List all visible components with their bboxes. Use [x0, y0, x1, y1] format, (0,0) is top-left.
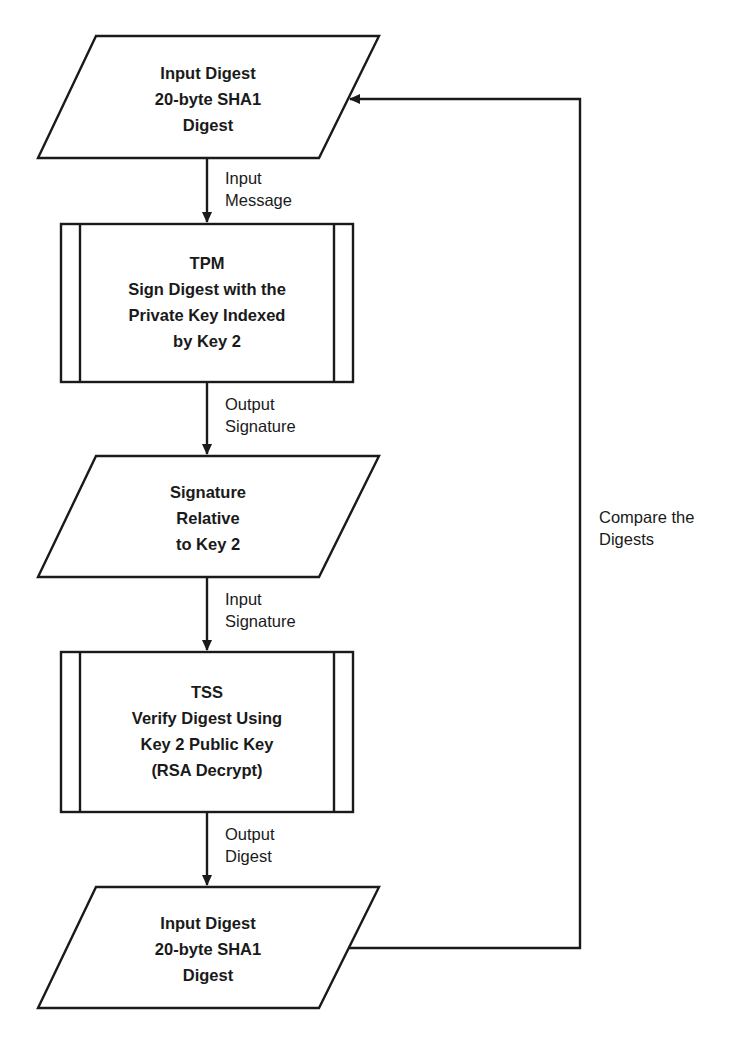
node-line: Digest [108, 962, 308, 988]
edge-label-input-message: Input Message [225, 167, 292, 211]
node-line: Input Digest [108, 60, 308, 86]
node-line: Key 2 Public Key [82, 731, 332, 757]
node-line: 20-byte SHA1 [108, 86, 308, 112]
edge-label-line: Signature [225, 610, 296, 632]
tss-verify-label: TSS Verify Digest Using Key 2 Public Key… [82, 679, 332, 783]
node-line: Signature [108, 479, 308, 505]
edge-label-compare-digests: Compare the Digests [599, 506, 694, 550]
edge-label-line: Message [225, 189, 292, 211]
node-line: 20-byte SHA1 [108, 936, 308, 962]
edge-label-output-digest: Output Digest [225, 823, 275, 867]
edge-compare-digests-arrow [348, 99, 580, 948]
node-line: (RSA Decrypt) [82, 757, 332, 783]
edge-label-line: Signature [225, 415, 296, 437]
node-line: Verify Digest Using [82, 705, 332, 731]
node-line: Input Digest [108, 910, 308, 936]
edge-label-line: Digest [225, 845, 275, 867]
node-line: Sign Digest with the [82, 276, 332, 302]
edge-label-line: Input [225, 167, 292, 189]
edge-label-output-signature: Output Signature [225, 393, 296, 437]
node-line: Private Key Indexed [82, 302, 332, 328]
node-line: by Key 2 [82, 328, 332, 354]
node-line: TPM [82, 250, 332, 276]
node-line: to Key 2 [108, 531, 308, 557]
tpm-sign-label: TPM Sign Digest with the Private Key Ind… [82, 250, 332, 354]
signature-label: Signature Relative to Key 2 [108, 479, 308, 557]
input-digest-bottom-label: Input Digest 20-byte SHA1 Digest [108, 910, 308, 988]
edge-label-line: Compare the [599, 506, 694, 528]
edge-label-input-signature: Input Signature [225, 588, 296, 632]
edge-label-line: Output [225, 823, 275, 845]
node-line: Digest [108, 112, 308, 138]
node-line: Relative [108, 505, 308, 531]
edge-label-line: Output [225, 393, 296, 415]
edge-label-line: Digests [599, 528, 694, 550]
edge-label-line: Input [225, 588, 296, 610]
node-line: TSS [82, 679, 332, 705]
input-digest-top-label: Input Digest 20-byte SHA1 Digest [108, 60, 308, 138]
